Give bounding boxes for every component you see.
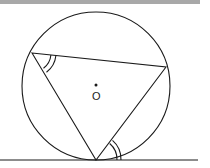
angle-mark-left <box>44 55 56 72</box>
center-point <box>95 84 98 87</box>
geometry-diagram: O <box>0 0 210 168</box>
center-label: O <box>92 90 101 102</box>
inscribed-triangle <box>32 53 166 160</box>
